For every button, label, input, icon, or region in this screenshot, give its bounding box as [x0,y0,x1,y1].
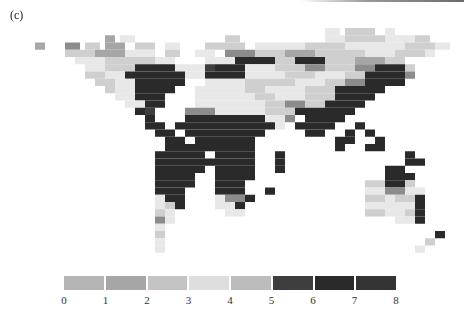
legend-tick-2: 2 [144,294,150,306]
legend-swatch-4 [231,276,271,290]
legend-swatch-2 [148,276,188,290]
world-map-grid [0,0,464,260]
legend-swatch-1 [106,276,146,290]
legend-tick-7: 7 [352,294,358,306]
legend-tick-8: 8 [393,294,399,306]
legend-swatch-3 [189,276,229,290]
legend-swatch-0 [64,276,104,290]
color-legend [64,276,396,290]
legend-tick-5: 5 [269,294,275,306]
legend-swatch-7 [356,276,396,290]
legend-tick-4: 4 [227,294,233,306]
legend-tick-6: 6 [310,294,316,306]
legend-swatch-5 [273,276,313,290]
legend-swatch-6 [315,276,355,290]
legend-tick-labels: 012345678 [60,294,400,308]
panel-label: (c) [10,8,23,23]
legend-tick-3: 3 [186,294,192,306]
legend-tick-1: 1 [103,294,109,306]
legend-tick-0: 0 [61,294,67,306]
